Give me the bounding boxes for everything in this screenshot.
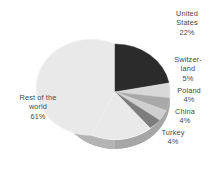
pie-label-poland: Poland 4% (162, 86, 216, 105)
pie-label-rest-of-world: Rest of the world 61% (4, 93, 72, 121)
pie-label-china: China 4% (158, 107, 212, 126)
pie-label-switzerland: Switzer- land 5% (160, 55, 216, 83)
pie-chart-figure: United States 22% Switzer- land 5% Polan… (0, 0, 220, 169)
pie-slices (36, 39, 170, 139)
pie-label-turkey: Turkey 4% (146, 128, 200, 147)
pie-label-united-states: United States 22% (158, 9, 216, 37)
